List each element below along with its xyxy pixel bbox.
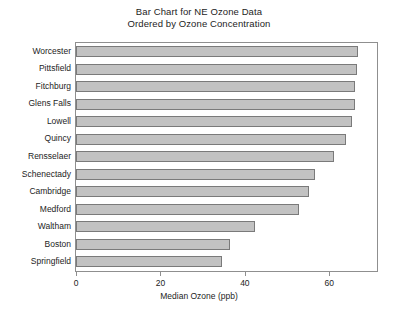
- bar: [76, 256, 222, 267]
- y-axis-label: Cambridge: [0, 186, 71, 196]
- bar-row: [76, 43, 377, 61]
- bar: [76, 64, 357, 75]
- bar: [76, 169, 315, 180]
- y-axis-label: Rensselaer: [0, 151, 71, 161]
- bar: [76, 204, 299, 215]
- bar-row: [76, 96, 377, 114]
- bar: [76, 186, 309, 197]
- bar: [76, 151, 334, 162]
- x-axis-tick-label: 20: [140, 278, 180, 288]
- x-axis-tick-mark: [160, 272, 161, 276]
- y-axis-label: Fitchburg: [0, 81, 71, 91]
- y-axis-label: Boston: [0, 239, 71, 249]
- bar: [76, 116, 352, 127]
- x-axis-tick-label: 0: [56, 278, 96, 288]
- bar-row: [76, 253, 377, 271]
- bar: [76, 81, 355, 92]
- bar-chart: Bar Chart for NE Ozone Data Ordered by O…: [0, 0, 398, 318]
- x-axis-tick-mark: [245, 272, 246, 276]
- bar-row: [76, 78, 377, 96]
- x-axis-title: Median Ozone (ppb): [0, 291, 398, 301]
- bar-row: [76, 201, 377, 219]
- chart-title-line-1: Bar Chart for NE Ozone Data: [0, 6, 398, 18]
- bar-row: [76, 113, 377, 131]
- bar-row: [76, 61, 377, 79]
- y-axis-label: Springfield: [0, 256, 71, 266]
- y-axis-category-labels: WorcesterPittsfieldFitchburgGlens FallsL…: [0, 42, 71, 272]
- bar-row: [76, 148, 377, 166]
- y-axis-label: Pittsfield: [0, 63, 71, 73]
- bar: [76, 134, 346, 145]
- x-axis-tick-mark: [329, 272, 330, 276]
- chart-title-line-2: Ordered by Ozone Concentration: [0, 18, 398, 30]
- bar-row: [76, 218, 377, 236]
- bar: [76, 99, 355, 110]
- y-axis-label: Medford: [0, 204, 71, 214]
- x-axis-tick-label: 60: [309, 278, 349, 288]
- bars-layer: [76, 43, 377, 271]
- bar: [76, 46, 358, 57]
- bar: [76, 221, 255, 232]
- y-axis-label: Lowell: [0, 116, 71, 126]
- y-axis-label: Glens Falls: [0, 98, 71, 108]
- bar-row: [76, 183, 377, 201]
- bar-row: [76, 166, 377, 184]
- x-axis-tick-label: 40: [225, 278, 265, 288]
- y-axis-label: Waltham: [0, 221, 71, 231]
- x-axis-tick-mark: [76, 272, 77, 276]
- bar-row: [76, 236, 377, 254]
- y-axis-label: Schenectady: [0, 169, 71, 179]
- y-axis-label: Quincy: [0, 133, 71, 143]
- y-axis-label: Worcester: [0, 46, 71, 56]
- chart-title: Bar Chart for NE Ozone Data Ordered by O…: [0, 6, 398, 29]
- bar-row: [76, 131, 377, 149]
- bar: [76, 239, 230, 250]
